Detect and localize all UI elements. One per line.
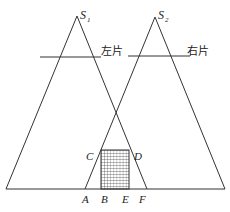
label-s2: S — [158, 8, 164, 22]
label-s1: S — [80, 8, 86, 22]
stereo-diagram: S 1 S 2 左片 右片 C D A B E F — [0, 0, 230, 212]
label-s2-subscript: 2 — [165, 16, 169, 24]
label-left-filter: 左片 — [101, 45, 123, 58]
label-right-filter: 右片 — [187, 44, 209, 58]
label-b: B — [101, 193, 108, 205]
label-a: A — [81, 193, 89, 205]
label-c: C — [86, 150, 94, 162]
label-s1-subscript: 1 — [87, 16, 91, 24]
label-d: D — [133, 150, 142, 162]
overlap-region — [101, 150, 129, 189]
label-f: F — [138, 193, 146, 205]
label-e: E — [121, 193, 129, 205]
